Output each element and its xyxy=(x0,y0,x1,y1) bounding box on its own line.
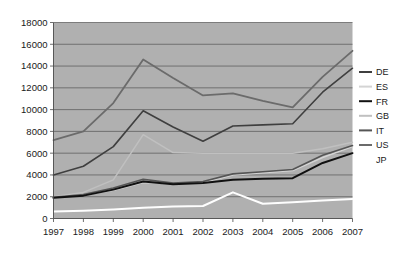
legend-label-fr: FR xyxy=(376,97,388,107)
y-tick-label: 14000 xyxy=(21,60,47,71)
x-axis-labels: 1997199819992000200120022003200420052006… xyxy=(43,226,363,237)
y-tick-label: 8000 xyxy=(26,126,47,137)
y-tick-label: 18000 xyxy=(21,17,47,28)
x-tick-label: 1997 xyxy=(43,226,64,237)
x-tick-label: 2002 xyxy=(192,226,213,237)
legend-label-gb: GB xyxy=(376,111,389,121)
legend-label-jp: JP xyxy=(376,155,387,165)
x-tick-label: 2004 xyxy=(252,226,273,237)
legend-label-it: IT xyxy=(376,126,385,136)
plot-area xyxy=(54,23,353,219)
y-tick-label: 10000 xyxy=(21,104,47,115)
legend-label-es: ES xyxy=(376,82,388,92)
x-tick-label: 2007 xyxy=(342,226,363,237)
chart-canvas: 0200040006000800010000120001400016000180… xyxy=(0,0,412,258)
y-tick-label: 12000 xyxy=(21,82,47,93)
x-tick-label: 2003 xyxy=(222,226,243,237)
y-tick-label: 6000 xyxy=(26,148,47,159)
x-tick-label: 2000 xyxy=(133,226,154,237)
x-tick-label: 1998 xyxy=(73,226,94,237)
legend-label-de: DE xyxy=(376,67,389,77)
legend-label-us: US xyxy=(376,140,389,150)
y-tick-label: 16000 xyxy=(21,39,47,50)
x-tick-label: 2006 xyxy=(312,226,333,237)
y-tick-label: 4000 xyxy=(26,169,47,180)
y-tick-label: 2000 xyxy=(26,191,47,202)
line-chart: 0200040006000800010000120001400016000180… xyxy=(0,0,412,258)
y-tick-label: 0 xyxy=(42,213,47,224)
x-tick-label: 2005 xyxy=(282,226,303,237)
x-tick-label: 1999 xyxy=(103,226,124,237)
x-tick-label: 2001 xyxy=(163,226,184,237)
